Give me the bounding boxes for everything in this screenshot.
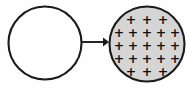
transfer-arrow-group <box>82 37 109 46</box>
neutral-sphere-circle <box>9 7 82 80</box>
positive-charge-symbol: + <box>170 51 180 66</box>
diagram-svg-canvas: +++++++++++++++++++++ <box>0 0 196 89</box>
charge-transfer-diagram: +++++++++++++++++++++ <box>0 0 196 89</box>
transfer-arrow-head-icon <box>103 37 109 46</box>
positive-charge-symbol: + <box>114 51 124 66</box>
positive-charge-symbol: + <box>158 64 168 79</box>
positive-charge-symbol: + <box>126 64 136 79</box>
positive-charge-symbol: + <box>142 64 152 79</box>
